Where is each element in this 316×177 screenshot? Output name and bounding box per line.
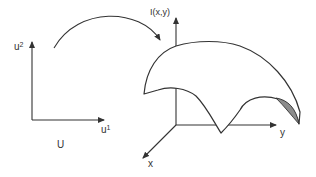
u2-axis-label: u2: [14, 42, 23, 52]
intensity-surface: [144, 42, 300, 134]
parameter-space-axes: [32, 42, 104, 120]
u1-axis-label: u1: [101, 125, 110, 135]
surface-body: [144, 42, 300, 134]
intensity-axis-label: I(x,y): [150, 8, 170, 17]
u2-base: u: [14, 41, 20, 52]
x-axis-label: x: [148, 159, 153, 169]
y-axis-label: y: [280, 128, 285, 138]
parameter-space-label: U: [57, 140, 64, 150]
mapping-arrow: [54, 16, 160, 48]
diagram-canvas: [0, 0, 316, 177]
u2-superscript: 2: [20, 41, 24, 48]
surface-mapping-diagram: u2 u1 U I(x,y) y x: [0, 0, 316, 177]
u1-base: u: [101, 124, 107, 135]
x-axis: [143, 125, 176, 158]
u1-superscript: 1: [107, 124, 111, 131]
